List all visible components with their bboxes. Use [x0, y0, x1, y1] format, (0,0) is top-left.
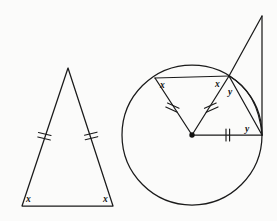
geometry-figure: x x: [0, 0, 277, 221]
circle-angle-label-x-right: x: [214, 79, 220, 89]
triangle-angle-label-right: x: [102, 194, 108, 204]
triangle-angle-label-left: x: [25, 194, 31, 204]
triangle-left-leg-tickmarks: [38, 133, 51, 141]
triangle-outline: [22, 68, 113, 206]
chord-top: [155, 76, 229, 78]
isosceles-triangle: x x: [22, 68, 113, 206]
line-to-external-apex: [229, 16, 262, 76]
circle-angle-label-y-upper: y: [227, 87, 233, 97]
circle-angle-label-x-left: x: [159, 80, 165, 90]
triangle-right-leg-tickmarks: [85, 132, 98, 140]
circle-diagram: x x y y: [122, 16, 262, 205]
geometry-canvas: x x: [0, 0, 277, 221]
circle-center-dot: [189, 132, 194, 137]
circle-angle-label-y-lower: y: [244, 124, 250, 134]
